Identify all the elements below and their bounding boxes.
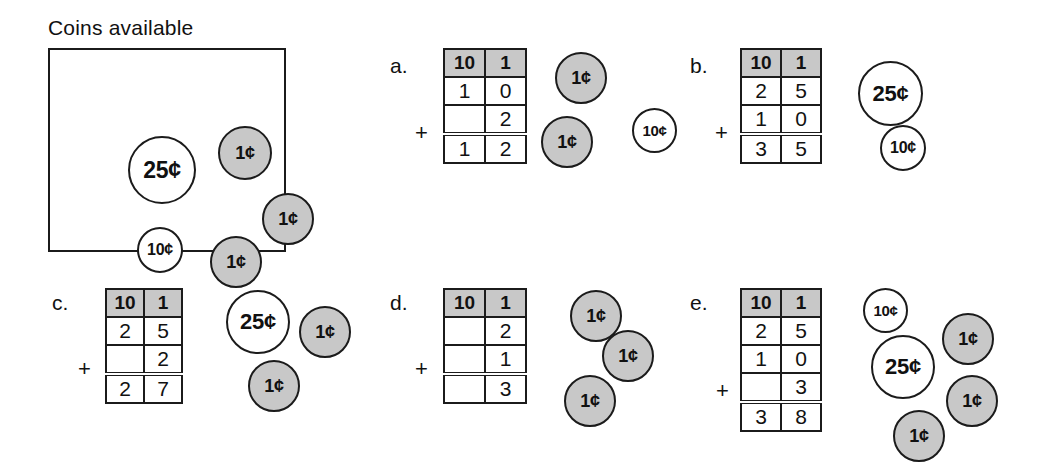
coin-penny-d-1[interactable]: 1¢ (602, 330, 654, 382)
table-sum-row: 27 (106, 374, 182, 403)
header-cell-tens: 10 (741, 289, 781, 317)
coin-quarter-available-0[interactable]: 25¢ (128, 136, 196, 204)
cell-tens-row2[interactable] (444, 105, 485, 134)
cell-tens-row1[interactable] (444, 317, 485, 345)
table-header-row: 101 (741, 49, 821, 77)
header-cell-tens: 10 (444, 289, 485, 317)
table-row: 10 (444, 77, 526, 105)
coin-label: 1¢ (571, 69, 590, 87)
sum-cell-ones[interactable]: 2 (485, 134, 526, 163)
cell-tens-row1[interactable]: 1 (444, 77, 485, 105)
coin-label: 10¢ (890, 140, 916, 156)
sum-cell-tens[interactable]: 1 (444, 134, 485, 163)
cell-ones-row3[interactable]: 3 (781, 373, 821, 402)
cell-ones-row1[interactable]: 5 (781, 77, 821, 105)
cell-ones-row1[interactable]: 5 (144, 317, 182, 345)
coin-label: 1¢ (618, 347, 637, 365)
header-cell-tens: 10 (444, 49, 485, 77)
place-value-table-a: 10110212 (443, 48, 527, 164)
coin-label: 1¢ (315, 323, 334, 341)
plus-sign-d: + (415, 358, 428, 380)
coin-penny-e-3[interactable]: 1¢ (946, 375, 998, 427)
sum-cell-tens[interactable]: 2 (106, 374, 144, 403)
coin-label: 25¢ (143, 159, 180, 182)
place-value-table-e: 1012510338 (740, 288, 822, 432)
coin-penny-a-0[interactable]: 1¢ (555, 52, 607, 104)
sum-cell-tens[interactable] (444, 374, 485, 403)
table-header-row: 101 (741, 289, 821, 317)
cell-ones-row2[interactable]: 2 (144, 345, 182, 374)
cell-tens-row1[interactable]: 2 (106, 317, 144, 345)
coin-quarter-e-2[interactable]: 25¢ (871, 335, 935, 399)
sum-cell-tens[interactable]: 3 (741, 134, 781, 163)
plus-sign-b: + (715, 122, 728, 144)
header-cell-ones: 1 (781, 49, 821, 77)
cell-ones-row2[interactable]: 2 (485, 105, 526, 134)
coin-label: 1¢ (962, 392, 981, 410)
table-row: 2 (444, 317, 526, 345)
cell-tens-row2[interactable] (444, 345, 485, 374)
cell-tens-row2[interactable]: 1 (741, 105, 781, 134)
plus-sign-a: + (415, 122, 428, 144)
header-cell-tens: 10 (741, 49, 781, 77)
header-cell-tens: 10 (106, 289, 144, 317)
panel-letter-c: c. (52, 292, 68, 313)
table-sum-row: 35 (741, 134, 821, 163)
coin-label: 25¢ (885, 356, 921, 378)
table-row: 2 (106, 345, 182, 374)
cell-tens-row1[interactable]: 2 (741, 317, 781, 345)
coin-dime-b-1[interactable]: 10¢ (880, 125, 926, 171)
coin-label: 1¢ (586, 307, 605, 325)
cell-tens-row1[interactable]: 2 (741, 77, 781, 105)
coin-penny-c-1[interactable]: 1¢ (299, 306, 351, 358)
coin-label: 1¢ (557, 133, 576, 151)
coin-label: 1¢ (235, 144, 254, 162)
table-sum-row: 3 (444, 374, 526, 403)
coin-penny-c-2[interactable]: 1¢ (248, 360, 300, 412)
coin-label: 1¢ (909, 427, 928, 445)
coin-quarter-b-0[interactable]: 25¢ (858, 61, 923, 126)
cell-tens-row2[interactable] (106, 345, 144, 374)
table-row: 10 (741, 105, 821, 134)
cell-ones-row2[interactable]: 0 (781, 105, 821, 134)
sum-cell-tens[interactable]: 3 (741, 402, 781, 431)
coin-dime-a-2[interactable]: 10¢ (632, 108, 677, 153)
coin-penny-available-4[interactable]: 1¢ (210, 236, 262, 288)
table-sum-row: 12 (444, 134, 526, 163)
coin-penny-e-1[interactable]: 1¢ (942, 313, 994, 365)
table-row: 25 (106, 317, 182, 345)
cell-tens-row3[interactable] (741, 373, 781, 402)
table-row: 2 (444, 105, 526, 134)
coin-label: 10¢ (873, 303, 897, 318)
cell-ones-row1[interactable]: 5 (781, 317, 821, 345)
coin-penny-d-2[interactable]: 1¢ (564, 375, 616, 427)
coin-label: 1¢ (580, 392, 599, 410)
cell-tens-row2[interactable]: 1 (741, 345, 781, 373)
coin-penny-available-2[interactable]: 1¢ (262, 193, 314, 245)
header-cell-ones: 1 (781, 289, 821, 317)
worksheet-page: Coins available 25¢1¢1¢10¢1¢ a.+10110212… (0, 0, 1044, 473)
coin-penny-a-1[interactable]: 1¢ (541, 116, 593, 168)
sum-cell-ones[interactable]: 5 (781, 134, 821, 163)
table-row: 25 (741, 77, 821, 105)
coin-dime-e-0[interactable]: 10¢ (863, 288, 908, 333)
cell-ones-row1[interactable]: 0 (485, 77, 526, 105)
coin-label: 25¢ (873, 83, 909, 105)
sum-cell-ones[interactable]: 8 (781, 402, 821, 431)
cell-ones-row1[interactable]: 2 (485, 317, 526, 345)
coin-label: 1¢ (226, 253, 245, 271)
place-value-table-b: 101251035 (740, 48, 822, 164)
coin-penny-available-1[interactable]: 1¢ (218, 126, 272, 180)
sum-cell-ones[interactable]: 7 (144, 374, 182, 403)
coin-penny-e-4[interactable]: 1¢ (893, 410, 945, 462)
place-value-table-c: 10125227 (105, 288, 183, 404)
coin-dime-available-3[interactable]: 10¢ (137, 227, 183, 273)
coins-available-title: Coins available (48, 16, 193, 40)
table-row: 1 (444, 345, 526, 374)
coin-label: 1¢ (278, 210, 297, 228)
cell-ones-row2[interactable]: 0 (781, 345, 821, 373)
sum-cell-ones[interactable]: 3 (485, 374, 526, 403)
table-sum-row: 38 (741, 402, 821, 431)
cell-ones-row2[interactable]: 1 (485, 345, 526, 374)
coin-quarter-c-0[interactable]: 25¢ (226, 290, 290, 354)
